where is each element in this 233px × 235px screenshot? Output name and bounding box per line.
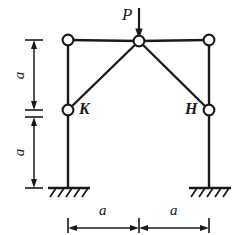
joint-h xyxy=(204,105,215,116)
member-top-beam-left xyxy=(68,40,139,41)
dimension-label-vertical-lower: a xyxy=(12,149,27,157)
load-label-p: P xyxy=(122,6,132,23)
joint-k xyxy=(63,105,74,116)
structural-frame-diagram: P K H a a a a xyxy=(0,0,233,235)
joint-top-left xyxy=(63,35,74,46)
joint-apex xyxy=(134,36,145,47)
support-right-fixed xyxy=(189,188,231,197)
joint-top-right xyxy=(204,35,215,46)
node-label-h: H xyxy=(185,101,197,117)
dimension-horizontal xyxy=(68,218,209,233)
dimension-vertical-lower xyxy=(25,117,43,188)
node-label-k: K xyxy=(79,101,90,117)
member-diagonal-right xyxy=(139,41,209,110)
dimension-vertical-upper xyxy=(25,40,43,110)
dimension-label-horizontal-left: a xyxy=(99,203,107,218)
load-arrow-p xyxy=(135,8,142,39)
dimension-label-horizontal-right: a xyxy=(170,203,178,218)
member-top-beam-right xyxy=(139,40,209,41)
dimension-label-vertical-upper: a xyxy=(12,72,27,80)
support-left-fixed xyxy=(48,188,90,197)
diagram-canvas xyxy=(0,0,233,235)
